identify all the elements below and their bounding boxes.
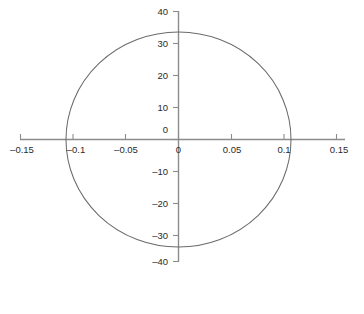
phase-diagram-plot: 40 30 20 10 0 –10 –20 –30 –40 –0.15 –0.1…	[0, 0, 364, 268]
xtick-label-0: 0	[176, 145, 181, 155]
ytick-label-30: 30	[132, 39, 168, 49]
x-axis-ticks	[21, 134, 337, 140]
y-axis-ticks	[173, 12, 179, 262]
xtick-label-minus-0-05: –0.05	[114, 145, 138, 155]
ytick-label-20: 20	[132, 71, 168, 81]
ytick-label-minus-40: –40	[132, 257, 168, 267]
xtick-label-0-05: 0.05	[223, 145, 242, 155]
xtick-label-minus-0-1: –0.1	[67, 145, 86, 155]
ytick-label-minus-10: –10	[132, 167, 168, 177]
figure-caption-block: Figure 3.19 Phase diagram of the steady …	[0, 268, 364, 314]
phase-diagram-svg	[0, 0, 364, 268]
ytick-label-minus-20: –20	[132, 199, 168, 209]
ytick-label-minus-30: –30	[132, 231, 168, 241]
ytick-label-40: 40	[132, 7, 168, 17]
xtick-label-0-15: 0.15	[330, 145, 349, 155]
figure-3-19: 40 30 20 10 0 –10 –20 –30 –40 –0.15 –0.1…	[0, 0, 364, 314]
ytick-label-10: 10	[132, 103, 168, 113]
ytick-label-0: 0	[132, 125, 168, 135]
xtick-label-0-1: 0.1	[277, 145, 290, 155]
xtick-label-minus-0-15: –0.15	[10, 145, 34, 155]
